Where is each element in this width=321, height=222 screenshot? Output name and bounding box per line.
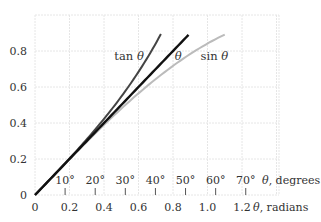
radian-tick-label: 1.2 — [233, 201, 251, 214]
y-tick-label: 0.8 — [10, 45, 28, 58]
curve-label-tan: tan θ — [114, 49, 144, 63]
degree-tick-label: 10° — [55, 174, 75, 187]
trig-small-angle-chart: 00.20.40.60.8 10°20°30°40°50°60°70° 00.2… — [0, 0, 321, 222]
curve-label-theta: θ — [175, 49, 182, 63]
y-tick-label: 0 — [20, 189, 27, 202]
degree-tick-label: 70° — [236, 174, 256, 187]
degree-axis: 10°20°30°40°50°60°70° — [55, 174, 255, 195]
y-tick-label: 0.4 — [10, 117, 28, 130]
radian-tick-label: 0.8 — [164, 201, 182, 214]
radian-tick-label: 0.2 — [61, 201, 79, 214]
y-tick-label: 0.6 — [10, 81, 28, 94]
degree-tick-label: 60° — [206, 174, 226, 187]
degree-tick-label: 40° — [146, 174, 166, 187]
degree-tick-label: 20° — [85, 174, 105, 187]
degrees-axis-title: θ, degrees — [262, 174, 320, 187]
radians-axis-title: θ, radians — [253, 201, 309, 214]
degree-tick-label: 30° — [116, 174, 136, 187]
degree-tick-label: 50° — [176, 174, 196, 187]
radian-tick-label: 0.6 — [130, 201, 148, 214]
radian-tick-label: 0 — [32, 201, 39, 214]
radian-tick-label: 0.4 — [95, 201, 113, 214]
curve-theta — [35, 35, 189, 195]
y-tick-label: 0.2 — [10, 153, 28, 166]
curve-label-sin: sin θ — [201, 49, 229, 63]
radian-axis: 00.20.40.60.81.01.2 — [32, 201, 251, 214]
y-axis-tick-labels: 00.20.40.60.8 — [10, 45, 28, 202]
radian-tick-label: 1.0 — [199, 201, 217, 214]
